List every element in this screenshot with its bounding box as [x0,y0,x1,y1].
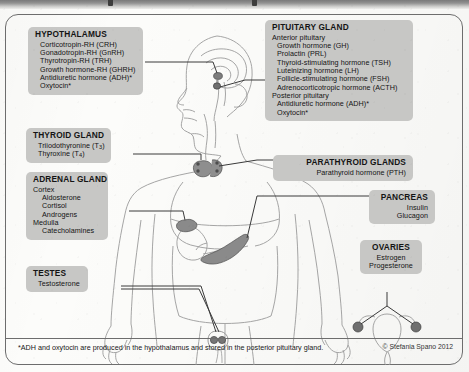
label-box-ovaries[interactable]: OVARIES Estrogen Progesterone [360,240,422,274]
testes-item: Testosterone [33,280,81,288]
thyroid-title: THYROID GLAND [33,131,104,141]
adrenal-gland-marker [176,219,196,231]
adrenal-title: ADRENAL GLAND [33,175,101,185]
cropped-header-strip [0,0,469,9]
pancreas-marker [201,234,249,264]
figure-page: HYPOTHALAMUS Corticotropin-RH (CRH) Gona… [0,0,469,372]
label-box-adrenal[interactable]: ADRENAL GLAND Cortex Aldosterone Cortiso… [26,172,108,240]
parathyroid-gland-marker [215,169,218,172]
footnote-text: *ADH and oxytocin are produced in the hy… [18,343,323,352]
label-box-pituitary[interactable]: PITUITARY GLAND Anterior pituitary Growt… [265,20,413,121]
label-box-testes[interactable]: TESTES Testosterone [26,266,88,292]
hypothalamus-item: Oxytocin* [35,82,136,90]
hypothalamus-gland-marker [214,73,223,80]
label-box-thyroid[interactable]: THYROID GLAND Triiodothyronine (T3) Thyr… [26,128,111,163]
parathyroid-item: Parathyroid hormone (PTH) [280,169,406,177]
parathyroid-title: PARATHYROID GLANDS [280,158,406,168]
pituitary-gland-marker [213,83,220,89]
testes-title: TESTES [33,269,81,279]
thyroid-gland-marker [193,161,212,177]
hypothalamus-title: HYPOTHALAMUS [35,30,136,40]
thyroid-item: Thyroxine (T4) [33,150,104,159]
uterus-ovaries-marker [353,314,421,365]
copyright-text: © Stefania Spano 2012 [383,343,453,350]
label-box-pancreas[interactable]: PANCREAS Insulin Glucagon [369,190,435,224]
parathyroid-gland-marker [196,162,199,165]
parathyroid-gland-marker [215,161,218,164]
ovaries-title: OVARIES [367,243,415,253]
ovaries-item: Progesterone [367,262,415,270]
label-box-hypothalamus[interactable]: HYPOTHALAMUS Corticotropin-RH (CRH) Gona… [28,27,143,95]
pituitary-posterior-item: Oxytocin* [272,109,406,117]
pancreas-item: Glucagon [376,212,428,220]
parathyroid-gland-marker [196,169,199,172]
pituitary-title: PITUITARY GLAND [272,23,406,33]
pancreas-title: PANCREAS [376,193,428,203]
label-box-parathyroid[interactable]: PARATHYROID GLANDS Parathyroid hormone (… [273,155,413,181]
adrenal-item: Catecholamines [33,227,101,235]
footer-divider [6,338,462,339]
